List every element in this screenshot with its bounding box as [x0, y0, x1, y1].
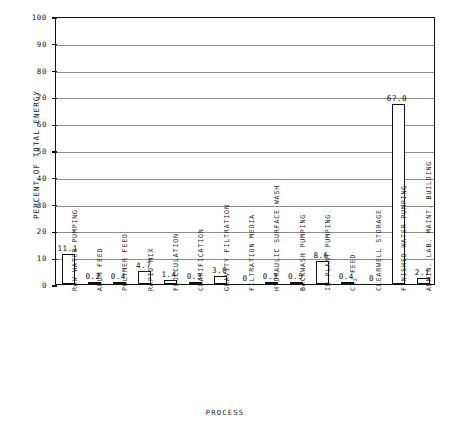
- x-tick-label: GRAVITY FILTRATION: [223, 204, 231, 291]
- y-tick-label: 40: [21, 174, 47, 183]
- y-tick-mark: [52, 44, 57, 45]
- x-tick-label: RAW WATER PUMPING: [71, 209, 79, 291]
- y-tick-label: 80: [21, 67, 47, 76]
- y-tick-label: 100: [21, 13, 47, 22]
- x-tick-label: Cl2 FEED: [349, 254, 358, 291]
- y-tick-mark: [52, 151, 57, 152]
- x-tick-label: CLEARWELL STORAGE: [375, 209, 383, 291]
- x-tick-label: HYDRAULIC SURFACE WASH: [273, 185, 281, 291]
- y-tick-mark: [52, 232, 57, 233]
- gridline: [56, 125, 434, 126]
- bar-value-label: 0.5: [276, 272, 316, 281]
- y-tick-mark: [52, 98, 57, 99]
- bar-value-label: 2.1: [402, 268, 442, 277]
- y-tick-mark: [52, 125, 57, 126]
- x-tick-label: POLYMER FEED: [121, 233, 129, 291]
- y-tick-mark: [52, 285, 57, 286]
- bar-value-label: 11.1: [48, 244, 88, 253]
- gridline: [56, 152, 434, 153]
- gridline: [56, 206, 434, 207]
- bar-value-label: 0.4: [98, 272, 138, 281]
- gridline: [56, 72, 434, 73]
- y-tick-label: 20: [21, 227, 47, 236]
- x-tick-label: ALUM FEED: [96, 248, 104, 291]
- y-tick-mark: [52, 205, 57, 206]
- y-tick-label: 70: [21, 93, 47, 102]
- y-tick-label: 30: [21, 201, 47, 210]
- bar-value-label: 67.0: [377, 94, 417, 103]
- y-tick-mark: [52, 178, 57, 179]
- y-tick-mark: [52, 17, 57, 18]
- x-tick-label: RAPID MIX: [147, 248, 155, 291]
- x-tick-label: FINISHED WATER PUMPING: [400, 185, 408, 291]
- y-tick-label: 90: [21, 40, 47, 49]
- bar-value-label: 4.7: [124, 261, 164, 270]
- x-tick-label: IN-PLANT PUMPING: [324, 214, 332, 291]
- x-tick-label: FLOCCULATION: [172, 233, 180, 291]
- y-tick-label: 10: [21, 254, 47, 263]
- y-tick-label: 0: [21, 281, 47, 290]
- y-tick-label: 60: [21, 120, 47, 129]
- gridline: [56, 45, 434, 46]
- x-tick-label: CLARIFICATION: [197, 228, 205, 291]
- bar-chart-figure: PERCENT OF TOTAL ENERGY 0102030405060708…: [0, 0, 450, 431]
- x-tick-label: BACKWASH PUMPING: [299, 214, 307, 291]
- x-axis-title: PROCESS: [0, 408, 450, 417]
- y-tick-label: 50: [21, 147, 47, 156]
- y-tick-mark: [52, 71, 57, 72]
- x-tick-label: ADMIN. LAB. MAINT. BUILDING: [425, 161, 433, 291]
- gridline: [56, 179, 434, 180]
- bar-value-label: 8.6: [301, 251, 341, 260]
- y-tick-mark: [52, 259, 57, 260]
- x-tick-label: FILTRATION MEDIA: [248, 214, 256, 291]
